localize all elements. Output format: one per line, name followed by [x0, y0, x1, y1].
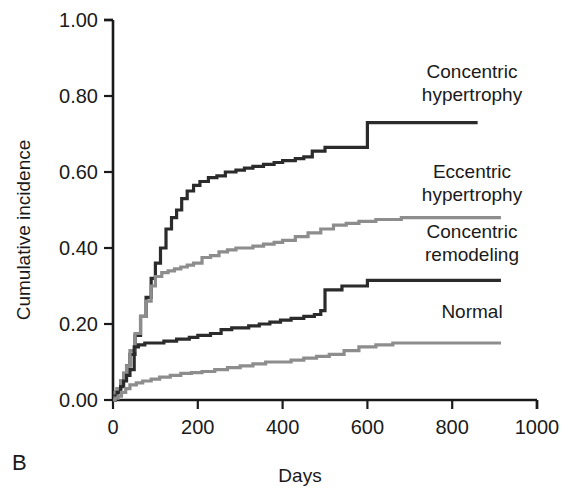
y-tick-label: 0.20 [59, 313, 98, 335]
y-tick-label: 0.80 [59, 85, 98, 107]
series-label-text: Eccentric [433, 161, 511, 182]
y-tick-label: 0.40 [59, 237, 98, 259]
figure-panel-b: Cumulative incidence Days B 0.000.200.40… [0, 0, 576, 501]
series-label-text: Normal [441, 301, 502, 322]
series-line [113, 123, 478, 400]
x-tick-label: 600 [351, 416, 384, 438]
y-axis-title: Cumulative incidence [13, 140, 34, 321]
series-legend: ConcentrichypertrophyEccentrichypertroph… [422, 61, 523, 322]
y-tick-label: 1.00 [59, 9, 98, 31]
y-tick-label: 0.00 [59, 389, 98, 411]
x-tick-label: 1000 [515, 416, 560, 438]
series-label-text: Concentric [427, 221, 518, 242]
y-axis-tick-labels: 0.000.200.400.600.801.00 [59, 9, 113, 411]
x-tick-label: 0 [107, 416, 118, 438]
series-label-text: Concentric [427, 61, 518, 82]
series-label-text: hypertrophy [422, 84, 523, 105]
x-axis-tick-labels: 02004006008001000 [107, 400, 559, 438]
panel-label: B [12, 450, 27, 475]
series-label-text: remodeling [425, 244, 519, 265]
series-label-text: hypertrophy [422, 184, 523, 205]
series-line [113, 343, 501, 400]
series-line [113, 280, 501, 400]
y-tick-label: 0.60 [59, 161, 98, 183]
x-axis-title: Days [278, 465, 321, 486]
x-tick-label: 400 [266, 416, 299, 438]
cumulative-incidence-chart: Cumulative incidence Days B 0.000.200.40… [0, 0, 576, 501]
x-tick-label: 200 [181, 416, 214, 438]
x-tick-label: 800 [436, 416, 469, 438]
